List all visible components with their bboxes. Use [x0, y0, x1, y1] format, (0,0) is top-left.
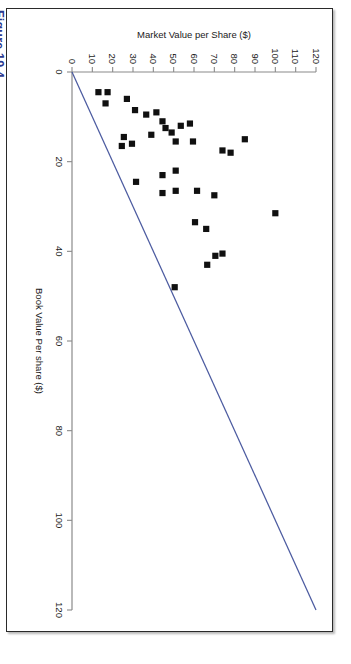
- data-point: [172, 188, 178, 194]
- axes-group: [67, 67, 316, 610]
- page-border-frame: 0204060801001200102030405060708090100110…: [6, 8, 333, 632]
- data-point: [132, 179, 138, 185]
- data-point: [118, 143, 124, 149]
- page-root: 0204060801001200102030405060708090100110…: [0, 0, 351, 664]
- x-axis-tick-label: 100: [54, 512, 65, 528]
- data-point: [95, 89, 101, 95]
- chart-area: 0204060801001200102030405060708090100110…: [10, 10, 330, 630]
- data-point: [159, 190, 165, 196]
- data-point: [219, 147, 225, 153]
- x-axis-tick-label: 60: [54, 336, 65, 347]
- data-point: [212, 253, 218, 259]
- y-axis-tick-label: 40: [147, 53, 158, 64]
- rotated-figure-container: 0204060801001200102030405060708090100110…: [10, 10, 330, 630]
- data-point: [128, 141, 134, 147]
- data-point: [241, 136, 247, 142]
- reference-line: [72, 72, 316, 610]
- data-point: [211, 192, 217, 198]
- data-point: [102, 100, 108, 106]
- data-point: [191, 219, 197, 225]
- scatter-plot-svg: 0204060801001200102030405060708090100110…: [10, 10, 330, 630]
- figure-caption: Figure 19.4: [0, 10, 6, 78]
- y-axis-title: Market Value per Share ($): [137, 29, 251, 40]
- y-axis-tick-label: 50: [168, 53, 179, 64]
- y-axis-tick-label: 20: [107, 53, 118, 64]
- data-point: [148, 132, 154, 138]
- reference-line-group: [72, 72, 316, 610]
- data-point: [123, 96, 129, 102]
- data-point: [186, 120, 192, 126]
- data-point: [193, 188, 199, 194]
- data-point: [153, 109, 159, 115]
- axis-labels-group: 0204060801001200102030405060708090100110…: [34, 29, 322, 618]
- x-axis-tick-label: 80: [54, 425, 65, 436]
- data-point: [131, 107, 137, 113]
- data-point: [272, 210, 278, 216]
- x-axis-title: Book Value Per share ($): [34, 288, 45, 394]
- data-point: [120, 134, 126, 140]
- x-axis-tick-label: 120: [54, 602, 65, 618]
- data-points-group: [95, 89, 278, 290]
- data-point: [189, 138, 195, 144]
- data-point: [104, 89, 110, 95]
- data-point: [172, 138, 178, 144]
- x-axis-tick-label: 20: [54, 156, 65, 167]
- data-point: [204, 262, 210, 268]
- data-point: [171, 284, 177, 290]
- x-axis-tick-label: 0: [54, 69, 65, 74]
- y-axis-tick-label: 90: [249, 53, 260, 64]
- data-point: [177, 123, 183, 129]
- data-point: [172, 168, 178, 174]
- data-point: [168, 129, 174, 135]
- y-axis-tick-label: 0: [66, 59, 77, 64]
- y-axis-tick-label: 60: [188, 53, 199, 64]
- y-axis-tick-label: 110: [290, 49, 301, 64]
- data-point: [219, 250, 225, 256]
- data-point: [143, 111, 149, 117]
- x-axis-tick-label: 40: [54, 246, 65, 257]
- y-axis-tick-label: 10: [86, 53, 97, 64]
- y-axis-tick-label: 100: [269, 48, 280, 64]
- y-axis-tick-label: 70: [208, 53, 219, 64]
- y-axis-tick-label: 80: [229, 53, 240, 64]
- data-point: [162, 125, 168, 131]
- data-point: [159, 172, 165, 178]
- data-point: [203, 226, 209, 232]
- data-point: [159, 118, 165, 124]
- y-axis-tick-label: 120: [310, 48, 321, 64]
- y-axis-tick-label: 30: [127, 53, 138, 64]
- data-point: [227, 150, 233, 156]
